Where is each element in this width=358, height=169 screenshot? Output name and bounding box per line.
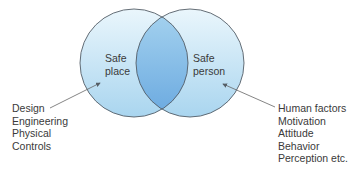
- safe-person-factors: Human factors Motivation Attitude Behavi…: [278, 102, 348, 165]
- safe-person-label: Safe person: [193, 52, 225, 77]
- safe-place-factors: Design Engineering Physical Controls: [12, 102, 68, 152]
- safe-place-label: Safe place: [105, 52, 130, 77]
